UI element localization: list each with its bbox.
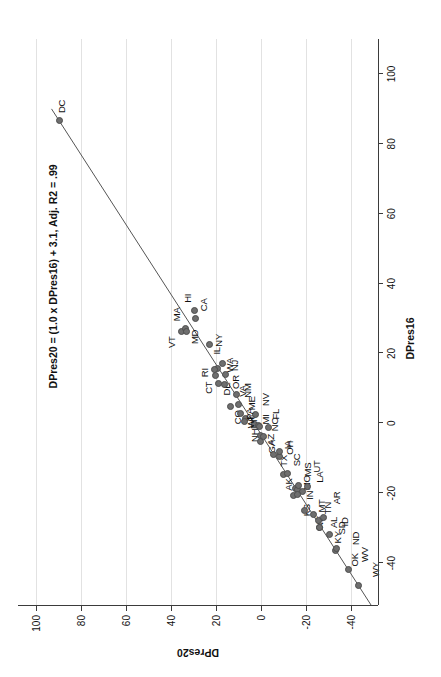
y-tick-label: 60 <box>121 615 132 626</box>
data-point <box>333 545 340 552</box>
x-tick <box>378 422 383 423</box>
x-tick-label: 0 <box>386 421 397 427</box>
data-point-label: CT <box>204 382 214 394</box>
plot-panel: DCVTMAMDNYCAHIWAILNJNMRICTDEORCOMNVAMENH… <box>18 39 378 605</box>
x-tick <box>378 562 383 563</box>
x-tick-label: -20 <box>386 486 397 500</box>
data-point-label: WI <box>246 417 256 428</box>
y-tick <box>261 606 262 611</box>
x-tick-label: 80 <box>386 138 397 149</box>
data-point-label: LA <box>315 472 325 483</box>
x-tick-label: -40 <box>386 556 397 570</box>
data-point-label: MA <box>172 307 182 321</box>
y-tick <box>216 606 217 611</box>
data-point <box>355 582 362 589</box>
y-tick-label: -40 <box>346 615 357 629</box>
data-point-label: VA <box>238 385 248 397</box>
data-point-label: DC <box>57 100 67 113</box>
data-point-label: NV <box>261 393 271 406</box>
y-tick-label: -20 <box>301 615 312 629</box>
x-tick <box>378 283 383 284</box>
data-point <box>301 507 308 514</box>
x-axis-title: DPres16 <box>404 0 416 677</box>
scatter-plot: DCVTMAMDNYCAHIWAILNJNMRICTDEORCOMNVAMENH… <box>0 0 441 677</box>
data-point <box>56 117 63 124</box>
data-point-label: VT <box>167 336 177 348</box>
y-tick <box>171 606 172 611</box>
y-tick <box>81 606 82 611</box>
data-point <box>227 403 234 410</box>
data-point <box>284 470 291 477</box>
y-axis-line <box>18 605 378 606</box>
x-tick <box>378 143 383 144</box>
x-tick <box>378 492 383 493</box>
data-point-label: ND <box>351 532 361 545</box>
data-point-label: NJ <box>230 360 240 371</box>
y-tick <box>351 606 352 611</box>
x-tick-label: 20 <box>386 348 397 359</box>
x-tick-label: 60 <box>386 208 397 219</box>
data-point-label: MT <box>317 499 327 512</box>
y-tick <box>36 606 37 611</box>
data-point-label: ID <box>340 517 350 526</box>
x-tick-label: 40 <box>386 278 397 289</box>
rotated-figure-wrapper: DCVTMAMDNYCAHIWAILNJNMRICTDEORCOMNVAMENH… <box>0 0 441 677</box>
y-tick-label: 0 <box>256 615 267 621</box>
data-point-label: SC <box>292 453 302 466</box>
data-point-label: HI <box>183 294 193 303</box>
figure-page: DCVTMAMDNYCAHIWAILNJNMRICTDEORCOMNVAMENH… <box>0 0 441 677</box>
y-tick-label: 80 <box>76 615 87 626</box>
data-point-label: WV <box>360 547 370 562</box>
y-tick-label: 20 <box>211 615 222 626</box>
y-axis-title: DPres20 <box>18 645 378 659</box>
x-tick <box>378 352 383 353</box>
data-point-label: RI <box>200 368 210 377</box>
data-point <box>256 423 263 430</box>
data-point <box>320 514 327 521</box>
y-tick-label: 40 <box>166 615 177 626</box>
data-point <box>345 566 352 573</box>
y-tick <box>126 606 127 611</box>
x-tick <box>378 73 383 74</box>
data-point <box>276 448 283 455</box>
data-point <box>222 371 229 378</box>
data-point-label: IN <box>305 491 315 500</box>
data-point-label: IL <box>212 347 222 355</box>
data-point-label: MD <box>190 330 200 344</box>
regression-equation-annotation: DPres20 = (1.0 x DPres16) + 3.1, Adj. R2… <box>47 164 59 388</box>
y-tick-label: 100 <box>31 615 42 632</box>
x-axis-line <box>378 39 379 605</box>
data-point-label: CA <box>199 298 209 311</box>
y-tick <box>306 606 307 611</box>
data-point <box>192 315 199 322</box>
data-point-label: AR <box>332 492 342 505</box>
data-point <box>237 410 244 417</box>
data-point-label: NY <box>214 334 224 347</box>
x-tick-label: 100 <box>386 66 397 83</box>
data-point-label: NC <box>270 418 280 431</box>
x-tick <box>378 213 383 214</box>
